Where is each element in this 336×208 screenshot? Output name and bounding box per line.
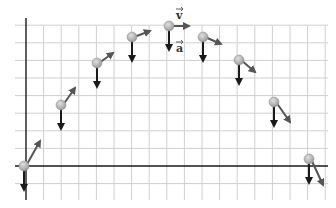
- ball-icon: [304, 154, 314, 164]
- velocity-arrow-icon: [311, 159, 323, 185]
- ball-icon: [198, 32, 208, 42]
- projectile-position: [304, 154, 323, 185]
- ball-icon: [269, 97, 279, 107]
- projectile-diagram: v a: [0, 0, 336, 208]
- ball-icon: [127, 32, 137, 42]
- ball-icon: [56, 100, 66, 110]
- projectile-position: [92, 53, 113, 87]
- ball-icon: [19, 161, 29, 171]
- ball-icon: [92, 58, 102, 68]
- velocity-label: v: [175, 9, 183, 22]
- vector-labels: v a: [175, 7, 183, 55]
- ball-icon: [234, 55, 244, 65]
- ball-icon: [164, 21, 174, 31]
- projectile-position: [198, 32, 221, 61]
- projectile-position: [127, 31, 150, 61]
- motion-vectors: [19, 21, 323, 190]
- velocity-arrow-icon: [26, 141, 40, 166]
- acceleration-label: a: [176, 42, 183, 55]
- projectile-position: [56, 88, 75, 129]
- diagram-canvas: v a: [0, 0, 336, 208]
